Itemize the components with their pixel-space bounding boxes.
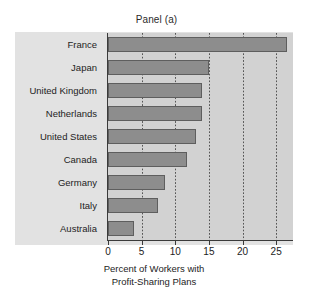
category-label-australia: Australia	[60, 224, 97, 234]
x-axis-caption-line1: Percent of Workers with	[15, 262, 293, 275]
bar-canada	[108, 152, 187, 167]
category-label-italy: Italy	[80, 201, 97, 211]
x-tick-mark-25	[276, 241, 277, 245]
category-label-united-states: United States	[40, 132, 97, 142]
x-tick-mark-5	[142, 241, 143, 245]
bar-italy	[108, 198, 158, 213]
x-tick-label-10: 10	[170, 246, 181, 257]
x-tick-label-5: 5	[139, 246, 145, 257]
plot-area	[108, 33, 293, 240]
bar-united-states	[108, 129, 196, 144]
x-axis-caption: Percent of Workers with Profit-Sharing P…	[15, 262, 293, 288]
x-axis-line	[107, 240, 293, 241]
x-tick-label-15: 15	[203, 246, 214, 257]
category-label-japan: Japan	[71, 63, 97, 73]
x-tick-mark-0	[108, 241, 109, 245]
gridline-15	[209, 33, 210, 240]
x-tick-label-0: 0	[105, 246, 111, 257]
x-tick-mark-20	[243, 241, 244, 245]
chart-title: Panel (a)	[0, 14, 313, 25]
gridline-25	[276, 33, 277, 240]
category-label-canada: Canada	[64, 155, 97, 165]
bar-australia	[108, 221, 134, 236]
category-label-united-kingdom: United Kingdom	[29, 86, 97, 96]
category-label-germany: Germany	[58, 178, 97, 188]
x-tick-mark-15	[209, 241, 210, 245]
y-axis-line	[107, 33, 108, 241]
bar-france	[108, 37, 287, 52]
bar-netherlands	[108, 106, 202, 121]
bar-united-kingdom	[108, 83, 202, 98]
x-tick-label-25: 25	[271, 246, 282, 257]
gridline-20	[243, 33, 244, 240]
category-label-netherlands: Netherlands	[46, 109, 97, 119]
chart-figure: Panel (a) 0510152025 FranceJapanUnited K…	[0, 0, 313, 297]
x-axis-caption-line2: Profit-Sharing Plans	[15, 275, 293, 288]
bar-germany	[108, 175, 165, 190]
category-label-france: France	[67, 40, 97, 50]
bar-japan	[108, 60, 209, 75]
x-tick-label-20: 20	[237, 246, 248, 257]
x-tick-mark-10	[175, 241, 176, 245]
